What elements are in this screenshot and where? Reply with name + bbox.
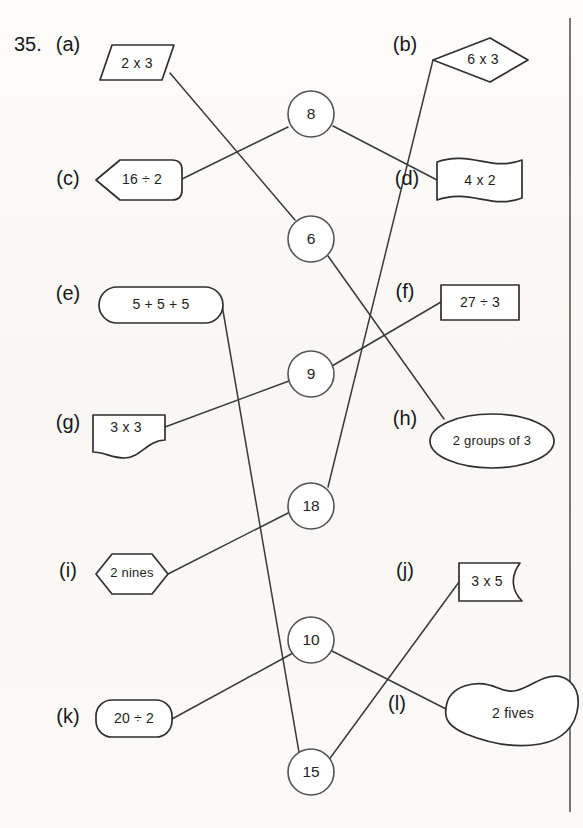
item-f[interactable]: (f) 27 ÷ 3 (396, 280, 519, 320)
edge-c-to-8[interactable] (180, 127, 288, 180)
item-b[interactable]: (b) 6 x 3 (393, 33, 528, 82)
edge-b-to-18[interactable] (328, 60, 433, 487)
item-j-label: (j) (396, 559, 414, 581)
item-g[interactable]: (g) 3 x 3 (56, 411, 165, 458)
item-h-label: (h) (393, 407, 417, 429)
edge-a-to-6[interactable] (170, 73, 295, 220)
item-b-text: 6 x 3 (467, 51, 498, 67)
node-9[interactable]: 9 (288, 351, 334, 397)
item-l-text: 2 fives (492, 705, 534, 721)
matching-diagram: 35. (a) 2 x 3 (b) 6 x 3 (c) 16 ÷ 2 (d) 4… (0, 0, 583, 828)
node-15-value: 15 (302, 763, 319, 780)
item-a[interactable]: (a) 2 x 3 (56, 33, 174, 80)
item-l[interactable]: (l) 2 fives (388, 676, 578, 745)
node-8-value: 8 (307, 105, 316, 122)
worksheet-page: 35. (a) 2 x 3 (b) 6 x 3 (c) 16 ÷ 2 (d) 4… (0, 0, 583, 828)
item-f-label: (f) (396, 280, 415, 302)
item-k-label: (k) (56, 705, 79, 727)
edge-k-to-10[interactable] (172, 653, 293, 719)
item-b-label: (b) (393, 33, 417, 55)
item-c-text: 16 ÷ 2 (122, 171, 162, 187)
node-18-value: 18 (302, 497, 319, 514)
item-a-label: (a) (56, 33, 80, 55)
node-10-value: 10 (302, 631, 320, 648)
node-6-value: 6 (307, 230, 316, 247)
item-j-text: 3 x 5 (471, 573, 502, 589)
item-k[interactable]: (k) 20 ÷ 2 (56, 700, 172, 737)
item-h-text: 2 groups of 3 (453, 433, 532, 448)
node-18[interactable]: 18 (288, 483, 334, 529)
edge-i-to-18[interactable] (168, 512, 290, 574)
item-d-label: (d) (395, 167, 419, 189)
item-f-text: 27 ÷ 3 (460, 294, 500, 310)
edge-8-to-d[interactable] (333, 126, 437, 180)
node-6[interactable]: 6 (288, 216, 334, 262)
edge-g-to-9[interactable] (165, 381, 289, 427)
edge-9-to-f[interactable] (332, 302, 441, 366)
item-c-label: (c) (56, 167, 79, 189)
item-l-label: (l) (388, 692, 406, 714)
item-d-text: 4 x 2 (464, 172, 495, 188)
item-i-text: 2 nines (110, 565, 154, 580)
question-number: 35. (14, 33, 42, 55)
node-8[interactable]: 8 (288, 91, 334, 137)
answer-nodes: 8 6 9 18 10 15 (288, 91, 334, 795)
item-j[interactable]: (j) 3 x 5 (396, 559, 522, 601)
item-a-text: 2 x 3 (121, 55, 152, 71)
item-d[interactable]: (d) 4 x 2 (395, 158, 522, 201)
item-g-label: (g) (56, 411, 80, 433)
item-e[interactable]: (e) 5 + 5 + 5 (56, 282, 223, 323)
item-k-text: 20 ÷ 2 (114, 710, 154, 726)
item-i-label: (i) (59, 559, 77, 581)
item-c[interactable]: (c) 16 ÷ 2 (56, 160, 182, 200)
item-i[interactable]: (i) 2 nines (59, 554, 168, 594)
item-e-text: 5 + 5 + 5 (132, 296, 189, 312)
item-h[interactable]: (h) 2 groups of 3 (393, 407, 554, 468)
node-9-value: 9 (307, 365, 316, 382)
edge-6-to-h[interactable] (328, 256, 444, 419)
item-e-label: (e) (56, 282, 80, 304)
item-g-text: 3 x 3 (110, 419, 141, 435)
edge-15-to-j[interactable] (328, 582, 459, 761)
node-15[interactable]: 15 (288, 749, 334, 795)
node-10[interactable]: 10 (288, 617, 334, 663)
